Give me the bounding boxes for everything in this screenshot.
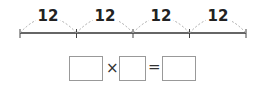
answer-box-1[interactable] [69, 56, 103, 81]
answer-box-3[interactable] [162, 56, 196, 81]
answer-box-2[interactable] [119, 56, 146, 81]
multiply-sign: × [106, 59, 119, 77]
segment-label-2: 12 [93, 7, 118, 25]
segment-label-3: 12 [149, 7, 174, 25]
segment-label-4: 12 [206, 7, 231, 25]
equals-sign: = [148, 58, 161, 76]
segment-label-1: 12 [36, 7, 61, 25]
